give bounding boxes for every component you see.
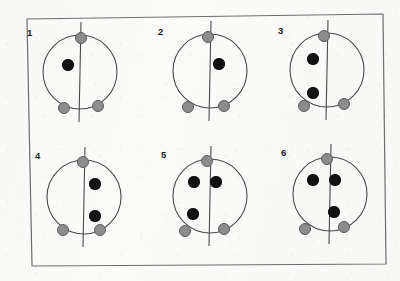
figure-vector-layer bbox=[0, 0, 400, 281]
panel-5-gray-dot-bottom-right bbox=[218, 223, 230, 235]
panel-2-gray-dot-bottom-left bbox=[182, 101, 194, 113]
panel-5-gray-dot-top bbox=[201, 155, 213, 167]
panel-3-black-dot-left-upper bbox=[307, 53, 319, 65]
panel-1-gray-dot-top bbox=[75, 32, 87, 44]
panel-number-1: 1 bbox=[27, 28, 32, 38]
panel-1-gray-dot-bottom-right bbox=[92, 100, 104, 112]
panel-5-black-dot-lower-left bbox=[187, 208, 199, 220]
panel-6-black-dot-upper-left bbox=[307, 174, 319, 186]
figure-root: 123456 bbox=[0, 0, 400, 281]
panel-1-gray-dot-bottom-left bbox=[58, 102, 70, 114]
panel-1-black-dot-left-upper bbox=[62, 59, 74, 71]
panel-4-black-dot-right-upper bbox=[89, 178, 101, 190]
panel-6-gray-dot-top bbox=[321, 153, 333, 165]
panel-4-gray-dot-bottom-left bbox=[57, 224, 69, 236]
panel-3-gray-dot-top bbox=[318, 30, 330, 42]
panel-4-black-dot-right-lower bbox=[89, 210, 101, 222]
panel-number-3: 3 bbox=[278, 26, 283, 36]
panel-6-gray-dot-bottom-right bbox=[338, 221, 350, 233]
panel-4-gray-dot-top bbox=[77, 156, 89, 168]
panel-2-gray-dot-bottom-right bbox=[218, 100, 230, 112]
panel-3-gray-dot-bottom-right bbox=[338, 98, 350, 110]
panel-number-6: 6 bbox=[281, 148, 286, 158]
panel-number-4: 4 bbox=[35, 151, 40, 161]
panel-3-gray-dot-bottom-left bbox=[298, 100, 310, 112]
circle-outlines-group bbox=[43, 33, 367, 234]
panel-6-black-dot-lower-right bbox=[328, 206, 340, 218]
panel-5-gray-dot-bottom-left bbox=[179, 225, 191, 237]
panel-2-black-dot-right-upper bbox=[213, 58, 225, 70]
panel-2-gray-dot-top bbox=[202, 31, 214, 43]
panel-number-2: 2 bbox=[158, 27, 163, 37]
panel-5-black-dot-upper-right bbox=[210, 176, 222, 188]
panel-5-black-dot-upper-left bbox=[188, 176, 200, 188]
panel-3-black-dot-left-lower bbox=[307, 87, 319, 99]
panel-number-5: 5 bbox=[161, 150, 166, 160]
panel-4-gray-dot-bottom-right bbox=[94, 224, 106, 236]
panel-6-black-dot-upper-right bbox=[329, 174, 341, 186]
panel-6-gray-dot-bottom-left bbox=[299, 223, 311, 235]
